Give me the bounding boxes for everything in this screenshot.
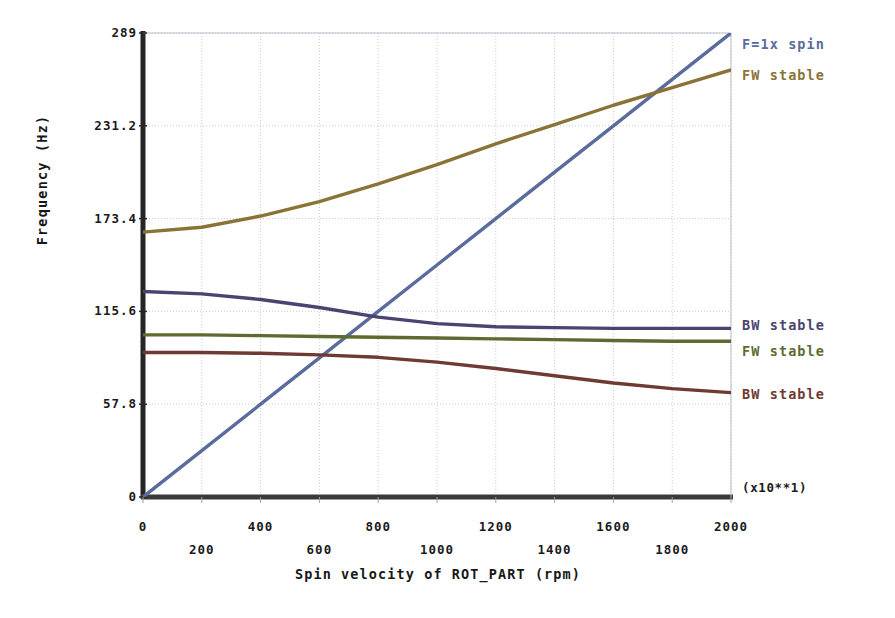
x-axis-title: Spin velocity of ROT_PART (rpm) — [143, 566, 733, 582]
x-tick-label: 800 — [333, 519, 423, 534]
legend-label-0: F=1x spin — [742, 36, 825, 52]
x-tick-label: 0 — [98, 519, 188, 534]
legend-label-4: BW stable — [742, 386, 825, 402]
x-tick-label: 1800 — [627, 542, 717, 557]
x-tick-label: 600 — [274, 542, 364, 557]
legend-label-1: FW stable — [742, 67, 825, 83]
x-tick-label: 200 — [157, 542, 247, 557]
x-tick-label: 1000 — [392, 542, 482, 557]
legend-label-2: BW stable — [742, 317, 825, 333]
legend-label-3: FW stable — [742, 343, 825, 359]
x-tick-label: 1400 — [510, 542, 600, 557]
chart-canvas: Frequency (Hz) 057.8115.6173.4231.2289 0… — [0, 0, 895, 618]
axis-exponent-note: (x10**1) — [742, 480, 807, 495]
x-tick-label: 1200 — [451, 519, 541, 534]
x-tick-label: 2000 — [686, 519, 776, 534]
x-tick-label: 1600 — [568, 519, 658, 534]
series-line-3 — [143, 335, 731, 341]
x-tick-label: 400 — [216, 519, 306, 534]
